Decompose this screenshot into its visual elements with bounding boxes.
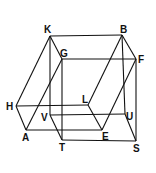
vertex-label-f: F <box>138 54 144 65</box>
vertex-label-h: H <box>6 101 13 112</box>
edge-le <box>88 105 102 130</box>
edge-kh <box>16 36 50 106</box>
vertex-label-s: S <box>133 143 140 154</box>
edge-bl <box>88 35 122 105</box>
edge-bu <box>122 35 125 114</box>
edge-hl <box>16 105 88 106</box>
vertex-label-l: L <box>82 94 88 105</box>
edge-kb <box>50 35 122 36</box>
vertex-label-a: A <box>22 132 29 143</box>
edge-ha <box>16 106 26 130</box>
geometric-diagram: KBGFHLVUAETS <box>0 0 156 173</box>
vertex-label-v: V <box>41 112 48 123</box>
edge-ts <box>62 140 136 141</box>
vertex-label-b: B <box>120 24 127 35</box>
vertex-label-g: G <box>60 48 68 59</box>
vertex-label-t: T <box>59 142 65 153</box>
edges-group <box>16 35 136 141</box>
labels-group: KBGFHLVUAETS <box>6 24 144 154</box>
vertex-label-k: K <box>44 24 52 35</box>
edge-vu <box>50 114 125 115</box>
edge-bf <box>122 35 136 59</box>
vertex-label-e: E <box>102 131 109 142</box>
vertex-label-u: U <box>126 111 133 122</box>
edge-vt <box>50 115 62 140</box>
